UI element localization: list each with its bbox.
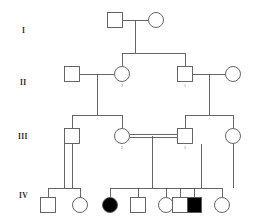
connector-lines-layer: [48, 20, 233, 197]
individual-number-label-III-3: 1: [184, 146, 186, 150]
individual-symbol-III-2[interactable]: [115, 129, 130, 144]
individual-symbol-II-3[interactable]: [178, 67, 193, 82]
individual-symbol-III-1[interactable]: [65, 129, 80, 144]
pedigree-diagram-canvas: [0, 0, 272, 223]
individual-symbol-IV-5[interactable]: [159, 198, 174, 213]
individual-symbols-layer: [41, 13, 241, 213]
individual-symbol-II-2[interactable]: [115, 67, 130, 82]
individual-symbol-IV-3[interactable]: [103, 198, 118, 213]
generation-label-ii: II: [20, 79, 26, 87]
individual-symbol-II-1[interactable]: [65, 67, 80, 82]
individual-symbol-IV-2[interactable]: [73, 198, 88, 213]
individual-symbol-III-3[interactable]: [178, 129, 193, 144]
individual-number-label-II-3: 1: [184, 84, 186, 88]
generation-label-iii: III: [18, 133, 28, 141]
individual-symbol-IV-7[interactable]: [215, 198, 230, 213]
individual-number-label-II-2: 2: [121, 84, 123, 88]
individual-number-label-III-2: 2: [121, 146, 123, 150]
individual-symbol-IV-8[interactable]: [173, 198, 188, 213]
individual-symbol-II-4[interactable]: [226, 67, 241, 82]
individual-symbol-I-2[interactable]: [149, 13, 164, 28]
individual-symbol-III-4[interactable]: [226, 129, 241, 144]
individual-symbol-I-1[interactable]: [108, 13, 123, 28]
individual-symbol-IV-6[interactable]: [187, 198, 202, 213]
individual-symbol-IV-4[interactable]: [131, 198, 146, 213]
pedigree-chart: IIIIIIIV 2121: [0, 0, 272, 223]
generation-label-iv: IV: [19, 192, 28, 200]
individual-symbol-IV-1[interactable]: [41, 198, 56, 213]
generation-label-i: I: [22, 27, 25, 35]
